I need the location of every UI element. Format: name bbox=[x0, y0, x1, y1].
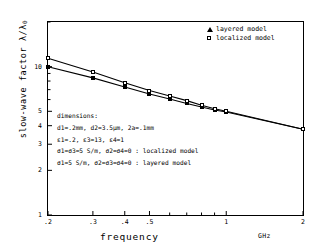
filled-triangle-icon bbox=[207, 26, 213, 32]
legend-item-localized: localized model bbox=[207, 34, 275, 43]
data-point bbox=[147, 89, 151, 93]
legend-label-localized: localized model bbox=[216, 34, 275, 43]
data-point bbox=[123, 85, 127, 89]
data-point bbox=[123, 81, 127, 85]
data-point bbox=[46, 65, 50, 69]
annotation-line: σ1=5 S/m, σ2=σ3=σ4=0 : layered model bbox=[57, 157, 199, 169]
chart-root: slow-wave factor λ/λ0 frequency GHz 1054… bbox=[0, 0, 324, 248]
open-square-icon bbox=[207, 35, 213, 41]
data-point bbox=[224, 109, 228, 113]
annotation-block: dimensions:d1=.2mm, d2=3.5μm, 2a=.1mmε1=… bbox=[57, 110, 199, 169]
data-point bbox=[213, 107, 217, 111]
data-point bbox=[46, 56, 50, 60]
annotation-line: d1=.2mm, d2=3.5μm, 2a=.1mm bbox=[57, 122, 199, 134]
legend-item-layered: layered model bbox=[207, 25, 275, 34]
data-point bbox=[200, 103, 204, 107]
annotation-line: ε1=.2, ε3=13, ε4=1 bbox=[57, 134, 199, 146]
data-point bbox=[91, 76, 95, 80]
legend-label-layered: layered model bbox=[216, 25, 267, 34]
data-point bbox=[168, 94, 172, 98]
annotation-line: σ1=σ3=5 S/m, σ2=σ4=0 : localized model bbox=[57, 145, 199, 157]
data-point bbox=[301, 127, 305, 131]
annotation-line: dimensions: bbox=[57, 110, 199, 122]
legend: layered model localized model bbox=[207, 25, 275, 42]
data-point bbox=[91, 70, 95, 74]
data-point bbox=[185, 99, 189, 103]
